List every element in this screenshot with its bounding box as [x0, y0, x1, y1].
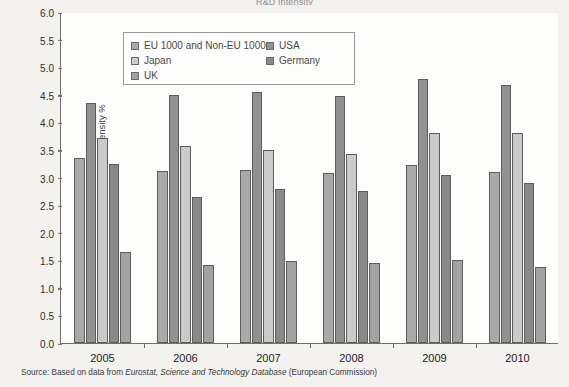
bar-2008-uk — [369, 263, 380, 343]
legend-label: UK — [144, 70, 158, 81]
legend-swatch-icon — [131, 57, 139, 65]
legend-item-uk[interactable]: UK — [131, 68, 266, 83]
chart-legend: EU 1000 and Non-EU 1000JapanUK USAGerman… — [123, 32, 355, 85]
y-tick-3.5: 3.5 — [5, 145, 61, 156]
legend-swatch-icon — [266, 57, 274, 65]
bar-2010-usa — [501, 85, 512, 343]
bar-2006-germany — [192, 197, 203, 343]
y-tick-4.0: 4.0 — [5, 118, 61, 129]
y-tick-2.5: 2.5 — [5, 201, 61, 212]
x-tick-label-2008: 2008 — [310, 343, 393, 364]
x-tick-label-2009: 2009 — [393, 343, 476, 364]
x-tick-label-2007: 2007 — [227, 343, 310, 364]
x-axis-separator — [144, 343, 145, 348]
bar-2005-uk — [120, 252, 131, 343]
bar-2009-eu-1000-and-non-eu-1000 — [406, 165, 417, 343]
bar-2006-uk — [203, 265, 214, 343]
bar-2005-germany — [109, 164, 120, 343]
x-axis-separator — [227, 343, 228, 348]
source-note: Source: Based on data from Eurostat, Sci… — [21, 368, 377, 377]
legend-item-eu-1000-and-non-eu-1000[interactable]: EU 1000 and Non-EU 1000 — [131, 38, 266, 53]
legend-swatch-icon — [131, 72, 139, 80]
bar-2005-japan — [97, 138, 108, 343]
x-tick-label-2005: 2005 — [61, 343, 144, 364]
y-tick-3.0: 3.0 — [5, 173, 61, 184]
bar-2005-eu-1000-and-non-eu-1000 — [74, 158, 85, 343]
y-tick-1.5: 1.5 — [5, 256, 61, 267]
bar-2008-eu-1000-and-non-eu-1000 — [323, 173, 334, 343]
legend-swatch-icon — [131, 42, 139, 50]
legend-label: USA — [279, 40, 300, 51]
x-tick-label-2006: 2006 — [144, 343, 227, 364]
y-tick-0.0: 0.0 — [5, 339, 61, 350]
source-suffix: (European Commission) — [287, 368, 378, 377]
plot-area: R&D intensity % 6.05.55.04.54.03.53.02.5… — [60, 13, 558, 344]
bar-2007-germany — [275, 189, 286, 343]
bar-2009-germany — [441, 175, 452, 343]
legend-label: Japan — [144, 55, 171, 66]
x-tick-label-2010: 2010 — [476, 343, 559, 364]
bar-2006-eu-1000-and-non-eu-1000 — [157, 171, 168, 343]
y-tick-6.0: 6.0 — [5, 8, 61, 19]
x-axis-separator — [393, 343, 394, 348]
bar-2010-uk — [535, 267, 546, 343]
bar-2010-germany — [524, 183, 535, 343]
source-prefix: Source: Based on data from — [21, 368, 125, 377]
y-tick-0.5: 0.5 — [5, 311, 61, 322]
legend-swatch-icon — [266, 42, 274, 50]
bar-2006-usa — [169, 95, 180, 343]
bar-2005-usa — [86, 103, 97, 343]
bar-2008-japan — [346, 154, 357, 343]
chart-title: R&D intensity — [0, 0, 569, 5]
bar-2008-usa — [335, 96, 346, 343]
bar-2006-japan — [180, 146, 191, 343]
bar-group-2009: 2009 — [393, 13, 476, 343]
legend-item-usa[interactable]: USA — [266, 38, 320, 53]
legend-label: Germany — [279, 55, 320, 66]
legend-column-left: EU 1000 and Non-EU 1000JapanUK — [131, 38, 266, 83]
bar-2010-japan — [512, 133, 523, 343]
bar-2008-germany — [358, 191, 369, 343]
x-axis-separator — [310, 343, 311, 348]
legend-column-right: USAGermany — [266, 38, 320, 68]
y-tick-4.5: 4.5 — [5, 90, 61, 101]
bar-group-2010: 2010 — [476, 13, 559, 343]
bar-2009-japan — [429, 133, 440, 343]
bar-2007-usa — [252, 92, 263, 343]
bar-2007-eu-1000-and-non-eu-1000 — [240, 170, 251, 343]
legend-label: EU 1000 and Non-EU 1000 — [144, 40, 266, 51]
bar-2007-uk — [286, 261, 297, 343]
source-italic: Eurostat, Science and Technology Databas… — [125, 368, 286, 377]
legend-item-germany[interactable]: Germany — [266, 53, 320, 68]
y-tick-2.0: 2.0 — [5, 228, 61, 239]
legend-item-japan[interactable]: Japan — [131, 53, 266, 68]
x-axis-separator — [476, 343, 477, 348]
bar-2009-uk — [452, 260, 463, 343]
bar-2007-japan — [263, 150, 274, 343]
y-tick-5.0: 5.0 — [5, 63, 61, 74]
chart-figure: R&D intensity R&D intensity % 6.05.55.04… — [0, 0, 569, 387]
y-tick-5.5: 5.5 — [5, 35, 61, 46]
y-tick-1.0: 1.0 — [5, 283, 61, 294]
bar-2010-eu-1000-and-non-eu-1000 — [489, 172, 500, 343]
bar-2009-usa — [418, 79, 429, 343]
